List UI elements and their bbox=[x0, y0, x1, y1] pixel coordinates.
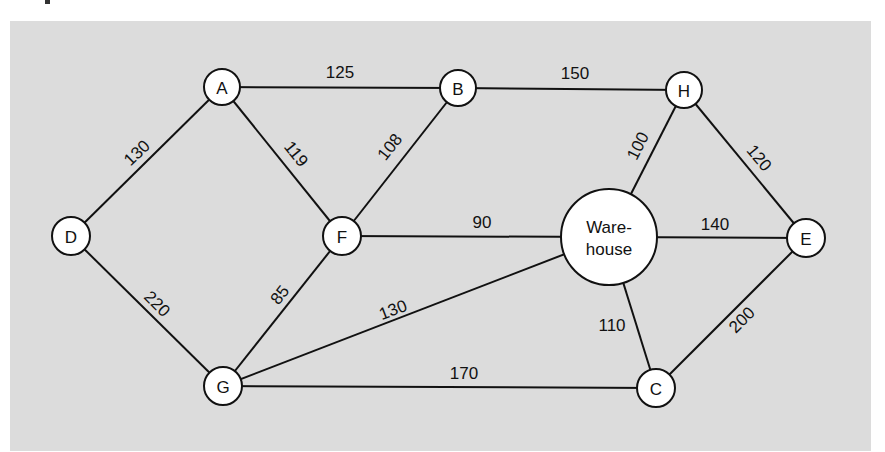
weight-A-B: 125 bbox=[326, 63, 354, 82]
edge-F-B bbox=[342, 88, 458, 236]
edge-A-F bbox=[222, 87, 342, 236]
network-graph: 125 150 130 119 108 100 120 90 140 220 8… bbox=[0, 0, 885, 452]
node-label-B: B bbox=[452, 80, 463, 99]
node-C: C bbox=[637, 369, 675, 407]
node-label-warehouse-line2: house bbox=[586, 240, 632, 259]
edges bbox=[71, 87, 806, 388]
node-E: E bbox=[787, 219, 825, 257]
node-B: B bbox=[440, 70, 476, 106]
node-label-H: H bbox=[678, 82, 690, 101]
node-H: H bbox=[666, 72, 702, 108]
node-D: D bbox=[52, 217, 90, 255]
weight-G-W: 130 bbox=[376, 296, 409, 324]
node-A: A bbox=[204, 69, 240, 105]
weight-H-E: 120 bbox=[743, 141, 776, 175]
node-warehouse: Ware- house bbox=[561, 189, 657, 285]
weight-G-C: 170 bbox=[450, 364, 478, 383]
node-G: G bbox=[204, 367, 242, 405]
weight-G-F: 85 bbox=[267, 282, 294, 309]
node-label-F: F bbox=[337, 228, 347, 247]
weight-W-E: 140 bbox=[701, 215, 729, 234]
node-label-D: D bbox=[65, 228, 77, 247]
weight-W-C: 110 bbox=[598, 316, 625, 335]
node-label-G: G bbox=[216, 378, 229, 397]
edge-D-A bbox=[71, 87, 222, 236]
node-label-A: A bbox=[216, 79, 228, 98]
weight-D-A: 130 bbox=[120, 136, 154, 169]
edge-labels: 125 150 130 119 108 100 120 90 140 220 8… bbox=[120, 63, 775, 383]
weight-B-H: 150 bbox=[561, 64, 589, 83]
weight-D-G: 220 bbox=[140, 287, 173, 320]
weight-F-W: 90 bbox=[473, 213, 492, 232]
edge-B-H bbox=[458, 88, 684, 90]
weight-C-E: 200 bbox=[725, 303, 758, 336]
edge-C-E bbox=[656, 238, 806, 388]
node-label-E: E bbox=[800, 230, 811, 249]
node-label-warehouse-line1: Ware- bbox=[586, 218, 632, 237]
edge-D-G bbox=[71, 236, 223, 386]
node-F: F bbox=[323, 217, 361, 255]
edge-G-C bbox=[223, 386, 656, 388]
edge-A-B bbox=[222, 87, 458, 88]
node-label-C: C bbox=[650, 380, 662, 399]
